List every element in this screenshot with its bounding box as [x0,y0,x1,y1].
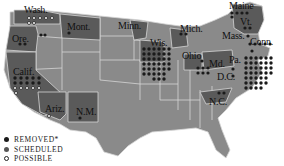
label-mass: Mass. [222,31,245,41]
label-wis: Wis. [150,38,167,48]
label-calif: Calif. [13,67,34,77]
label-mont: Mont. [67,22,90,32]
legend-possible: POSSIBLE [4,154,63,164]
label-vt: Vt. [240,17,252,27]
legend-possible-label: POSSIBLE [14,154,53,163]
label-ohio: Ohio [182,51,201,61]
legend-removed-label: REMOVED* [14,135,59,144]
legend-scheduled: SCHEDULED [4,145,63,155]
label-md: Md. [209,59,225,69]
removed-dot-icon [4,137,9,142]
label-nc: N.C. [209,97,227,107]
label-wash: Wash. [24,5,47,15]
label-ore: Ore. [12,34,29,44]
legend-scheduled-label: SCHEDULED [14,145,63,154]
scheduled-dot-icon [4,147,9,152]
label-conn: Conn. [250,37,273,47]
dots-ariz-possible [48,115,51,118]
label-maine: Maine [229,1,254,11]
label-dc: D.C. [217,72,235,82]
label-nm: N.M. [76,107,96,117]
label-minn: Minn. [118,21,141,31]
legend-removed: REMOVED* [4,135,63,145]
label-mich: Mich. [180,24,203,34]
legend: REMOVED* SCHEDULED POSSIBLE [4,135,63,164]
label-ariz: Ariz. [45,104,64,114]
possible-dot-icon [4,156,9,161]
label-pa: Pa. [229,55,241,65]
